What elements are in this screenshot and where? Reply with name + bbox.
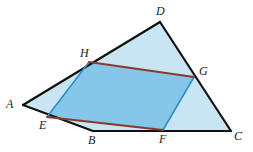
vertex-label-A: A — [6, 98, 13, 110]
vertex-label-D: D — [156, 5, 165, 17]
vertex-label-E: E — [39, 119, 46, 131]
vertex-label-G: G — [199, 65, 208, 77]
vertex-label-B: B — [88, 134, 95, 146]
vertex-label-F: F — [159, 133, 166, 145]
vertex-label-C: C — [234, 130, 242, 142]
figure-canvas — [0, 0, 253, 152]
vertex-label-H: H — [80, 47, 89, 59]
geometry-figure: A B C D E F G H — [0, 0, 253, 152]
